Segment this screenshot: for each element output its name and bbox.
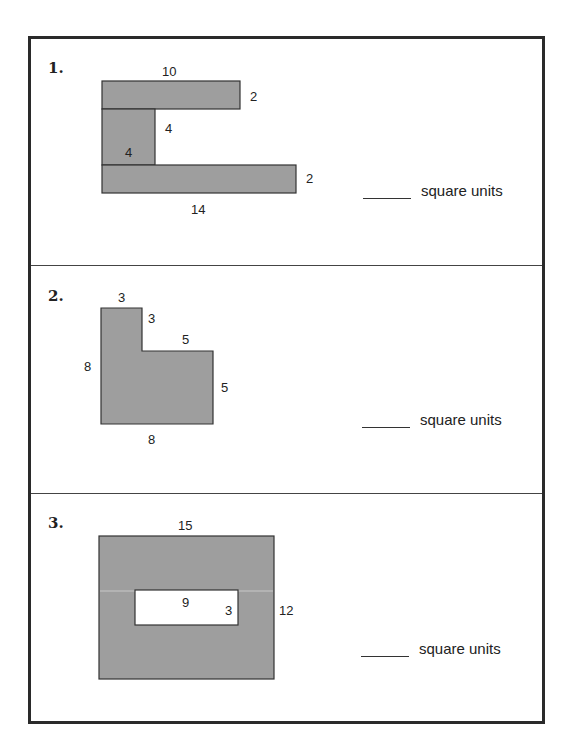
problem-number-3: 3. xyxy=(48,514,64,532)
dimension-label: 4 xyxy=(125,146,132,159)
units-label: square units xyxy=(421,182,503,199)
figure-2-l-shape xyxy=(101,308,213,424)
units-label: square units xyxy=(419,640,501,657)
dimension-label: 3 xyxy=(118,291,125,304)
dimension-label: 8 xyxy=(148,433,155,446)
dimension-label: 12 xyxy=(279,604,293,617)
dimension-label: 14 xyxy=(191,203,205,216)
answer-field-1[interactable]: square units xyxy=(363,182,503,199)
answer-field-2[interactable]: square units xyxy=(362,411,502,428)
units-label: square units xyxy=(420,411,502,428)
answer-field-3[interactable]: square units xyxy=(361,640,501,657)
dimension-label: 9 xyxy=(182,596,189,609)
answer-blank[interactable] xyxy=(361,644,409,657)
dimension-label: 3 xyxy=(225,604,232,617)
answer-blank[interactable] xyxy=(362,415,410,428)
problem-number-2: 2. xyxy=(48,287,64,305)
dimension-label: 3 xyxy=(148,312,155,325)
dimension-label: 4 xyxy=(165,122,172,135)
answer-blank[interactable] xyxy=(363,186,411,199)
problem-number-1: 1. xyxy=(48,59,64,77)
dimension-label: 2 xyxy=(306,172,313,185)
figure-1-c-shape xyxy=(102,81,296,193)
dimension-label: 10 xyxy=(162,65,176,78)
dimension-label: 5 xyxy=(221,381,228,394)
dimension-label: 5 xyxy=(182,333,189,346)
dimension-label: 15 xyxy=(178,519,192,532)
dimension-label: 2 xyxy=(250,90,257,103)
dimension-label: 8 xyxy=(84,360,91,373)
